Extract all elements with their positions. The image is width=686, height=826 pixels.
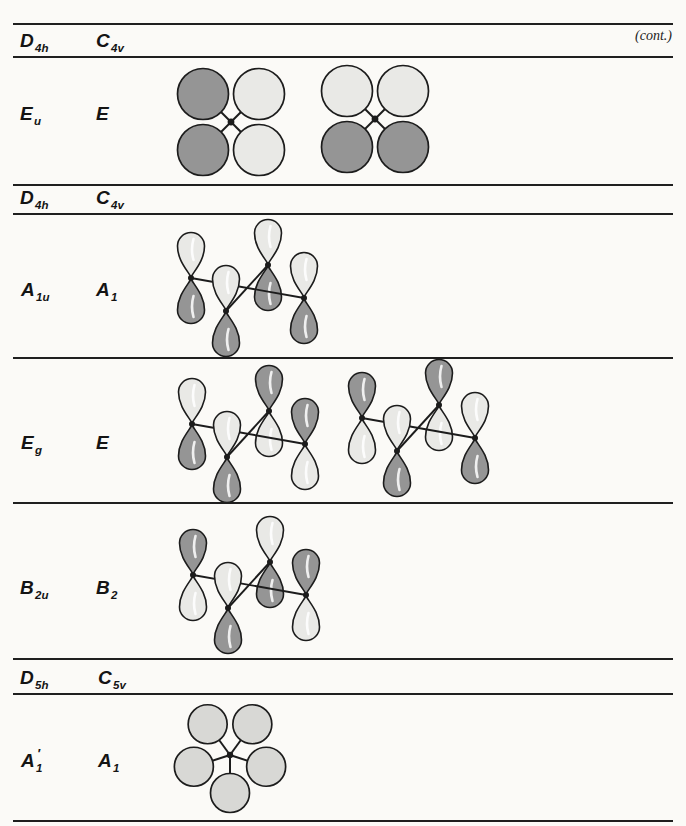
mulliken-label-e: E	[96, 433, 110, 452]
mulliken-label-eu: Eu	[20, 104, 41, 126]
mulliken-label-a1: A1	[96, 280, 118, 302]
table-rule	[13, 23, 673, 25]
orbital-diagram-s1-r1-0	[179, 366, 319, 503]
continuation-label: (cont.)	[635, 28, 672, 44]
orbital-diagram-s1-r0-0	[178, 220, 318, 357]
table-rule	[13, 184, 673, 186]
mulliken-label-a1u: A1u	[21, 280, 50, 302]
orbital-diagram-s0-r0-0	[178, 69, 285, 176]
textbook-page: (cont.) D4h C4v Eu E D4h C4v A1u A1 Eg E…	[0, 0, 686, 826]
mulliken-label-b2: B2	[96, 578, 118, 600]
mulliken-label-e: E	[96, 104, 110, 123]
table-rule	[13, 357, 673, 359]
point-group-label-c4v: C4v	[96, 31, 124, 53]
orbital-diagram-s1-r2-0	[180, 517, 320, 654]
mulliken-label-a1-prime: A′1	[21, 751, 43, 773]
point-group-label-c4v: C4v	[96, 188, 124, 210]
orbital-diagram-s0-r0-1	[322, 66, 429, 173]
table-rule	[13, 658, 673, 660]
mulliken-label-a1: A1	[98, 751, 120, 773]
point-group-label-d4h: D4h	[20, 188, 49, 210]
orbital-diagram-s1-r1-1	[349, 360, 489, 497]
mulliken-label-b2u: B2u	[20, 578, 49, 600]
table-rule	[13, 502, 673, 504]
point-group-label-d4h: D4h	[20, 31, 49, 53]
table-rule	[13, 820, 673, 822]
point-group-label-d5h: D5h	[20, 668, 49, 690]
orbital-diagram-s2-r0-0	[174, 705, 285, 813]
mulliken-label-eg: Eg	[21, 433, 42, 455]
point-group-label-c5v: C5v	[98, 668, 126, 690]
